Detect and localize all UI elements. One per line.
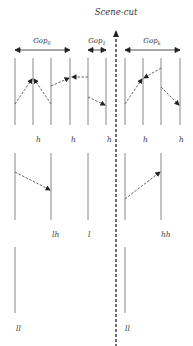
label-h: h [143,135,148,144]
row1-arrows [15,68,179,105]
gop-span-arrows [15,48,180,53]
row1-labels: h h h h h [36,135,184,144]
label-ll: ll [125,324,130,333]
label-h: h [179,135,184,144]
label-l: l [88,230,91,239]
label-lh: lh [52,230,59,239]
label-ll: ll [16,324,21,333]
row2-frames [15,153,161,220]
scene-cut-label: Scene-cut [95,7,138,17]
label-h: h [36,135,41,144]
label-h: h [107,135,112,144]
gopk-label: Gopk [143,37,160,46]
row2-labels: lh l hh [52,230,171,239]
label-hh: hh [161,230,171,239]
gop0-label: Gop0 [33,37,51,46]
scene-cut-arrow-icon [113,30,119,37]
row3-frames [15,247,125,313]
row3-labels: ll ll [16,324,130,333]
row1-frames [15,58,180,125]
label-h: h [71,135,76,144]
gop1-label: Gop1 [88,37,105,46]
gop-diagram: Scene-cut Gop0 Gop1 Gopk [0,0,193,346]
